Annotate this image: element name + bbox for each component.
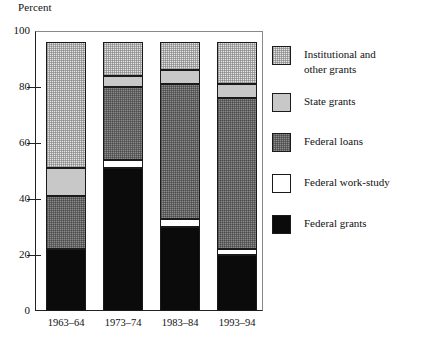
legend-item: State grants — [272, 93, 356, 112]
bar-segment-state-grants — [46, 168, 86, 196]
legend-item: Institutional and other grants — [272, 46, 376, 76]
legend-item: Federal work-study — [272, 174, 390, 193]
y-axis-tick-label: 60 — [4, 137, 30, 148]
bar-segment-federal-work-study — [160, 219, 200, 227]
legend-item-label: Institutional and other grants — [304, 46, 376, 76]
legend-item: Federal loans — [272, 133, 363, 152]
bar-segment-federal-loans — [46, 196, 86, 249]
bar-segment-federal-grants — [160, 227, 200, 311]
state-swatch — [272, 93, 291, 112]
bar-segment-federal-loans — [103, 87, 143, 160]
stacked-bar — [217, 31, 257, 311]
bar-segment-federal-loans — [160, 84, 200, 218]
bar-segment-federal-loans — [217, 98, 257, 249]
bar-segment-institutional-and-other-grants — [160, 42, 200, 70]
bar-segment-institutional-and-other-grants — [217, 42, 257, 84]
bar-segment-federal-grants — [46, 249, 86, 311]
stacked-bar — [46, 31, 86, 311]
x-axis-tick-label: 1993–94 — [205, 317, 269, 329]
y-axis-tick-label: 20 — [4, 249, 30, 260]
x-axis-tick-label: 1973–74 — [91, 317, 155, 329]
legend-item-label: State grants — [304, 93, 356, 109]
bar-segment-institutional-and-other-grants — [46, 42, 86, 168]
bar-segment-state-grants — [160, 70, 200, 84]
bar-segment-federal-work-study — [217, 249, 257, 255]
workstudy-swatch — [272, 174, 291, 193]
legend-item-label: Federal grants — [304, 215, 367, 231]
y-axis-tick-label: 0 — [4, 305, 30, 316]
grants-swatch — [272, 215, 291, 234]
stacked-bar — [160, 31, 200, 311]
stacked-bar-chart-figure: Percent 100806040200 1963–641973–741983–… — [0, 0, 439, 341]
x-axis-tick-label: 1963–64 — [34, 317, 98, 329]
bar-segment-federal-grants — [103, 168, 143, 311]
y-axis-tick-label: 100 — [4, 25, 30, 36]
bar-segment-state-grants — [103, 76, 143, 87]
loans-swatch — [272, 133, 291, 152]
y-axis-title: Percent — [18, 1, 52, 13]
stacked-bar — [103, 31, 143, 311]
y-axis-tick-label: 40 — [4, 193, 30, 204]
bar-segment-institutional-and-other-grants — [103, 42, 143, 76]
bar-segment-federal-grants — [217, 255, 257, 311]
legend-item-label: Federal work-study — [304, 174, 390, 190]
bar-segment-federal-work-study — [103, 160, 143, 168]
y-axis-tick-label: 80 — [4, 81, 30, 92]
institutional-swatch — [272, 46, 291, 65]
legend-item: Federal grants — [272, 215, 367, 234]
legend-item-label: Federal loans — [304, 133, 363, 149]
x-axis-tick-label: 1983–84 — [148, 317, 212, 329]
bar-segment-state-grants — [217, 84, 257, 98]
